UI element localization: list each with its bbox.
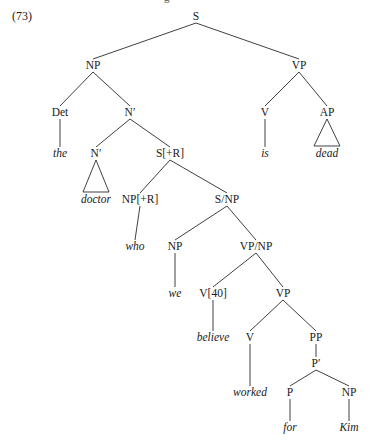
leaf-word-is: is (261, 147, 269, 159)
tree-branch (299, 72, 327, 106)
tree-branch (93, 72, 130, 106)
node-label-s: S (193, 10, 199, 22)
leaf-word-kim: Kim (338, 421, 358, 433)
tree-branch (93, 23, 196, 59)
node-label-nbar1: Nʹ (125, 106, 136, 118)
syntax-tree: g (73) SNPVPDetNʹVAPtheNʹS[+R]isdeaddoct… (0, 0, 370, 444)
leaf-word-for: for (283, 421, 297, 434)
tree-branch (140, 160, 170, 193)
node-label-sr: S[+R] (156, 147, 184, 159)
node-label-np2: NP (168, 240, 183, 252)
tree-branch (130, 119, 170, 147)
leaf-word-believe: believe (197, 331, 230, 343)
node-label-det: Det (52, 106, 69, 118)
node-label-pp: PP (310, 331, 323, 343)
node-label-nbar2: Nʹ (91, 147, 102, 159)
tree-branch (256, 253, 283, 287)
triangle-abbreviation (83, 160, 109, 192)
tree-branch (227, 206, 256, 240)
node-label-pbar: Pʹ (312, 357, 321, 369)
leaf-word-who: who (125, 240, 144, 252)
node-label-npr: NP[+R] (122, 193, 159, 205)
node-label-vp2: VP (276, 287, 291, 299)
leaf-word-we: we (169, 287, 182, 299)
leaf-word-worked: worked (233, 386, 267, 398)
tree-branch (213, 253, 256, 287)
leaf-word-the: the (53, 147, 67, 159)
leaf-word-dead: dead (316, 147, 339, 159)
node-label-v2: V (246, 331, 255, 343)
tree-branch (170, 160, 227, 193)
node-label-np1: NP (86, 59, 101, 71)
node-label-np3: NP (342, 386, 357, 398)
tree-branch (265, 72, 299, 106)
node-label-vp1: VP (292, 59, 307, 71)
node-label-ap: AP (320, 106, 335, 118)
tree-branch (135, 206, 140, 240)
node-label-p: P (287, 386, 293, 398)
example-number: (73) (12, 9, 32, 23)
tree-branch (250, 300, 283, 331)
tree-branch (60, 72, 93, 106)
tree-triangles (83, 119, 340, 192)
tree-branch (96, 119, 130, 147)
node-label-v40: V[40] (199, 287, 226, 299)
node-label-v1: V (261, 106, 270, 118)
cut-off-text: g (164, 0, 170, 3)
tree-edges (60, 23, 349, 421)
tree-node-labels: SNPVPDetNʹVAPtheNʹS[+R]isdeaddoctorNP[+R… (52, 10, 359, 434)
node-label-vpnp: VP/NP (240, 240, 273, 252)
node-label-snp: S/NP (215, 193, 239, 205)
tree-branch (283, 300, 316, 331)
triangle-abbreviation (314, 119, 340, 146)
leaf-word-doctor: doctor (81, 193, 112, 205)
tree-branch (316, 370, 349, 386)
tree-branch (290, 370, 316, 386)
tree-branch (196, 23, 299, 59)
tree-branch (175, 206, 227, 240)
